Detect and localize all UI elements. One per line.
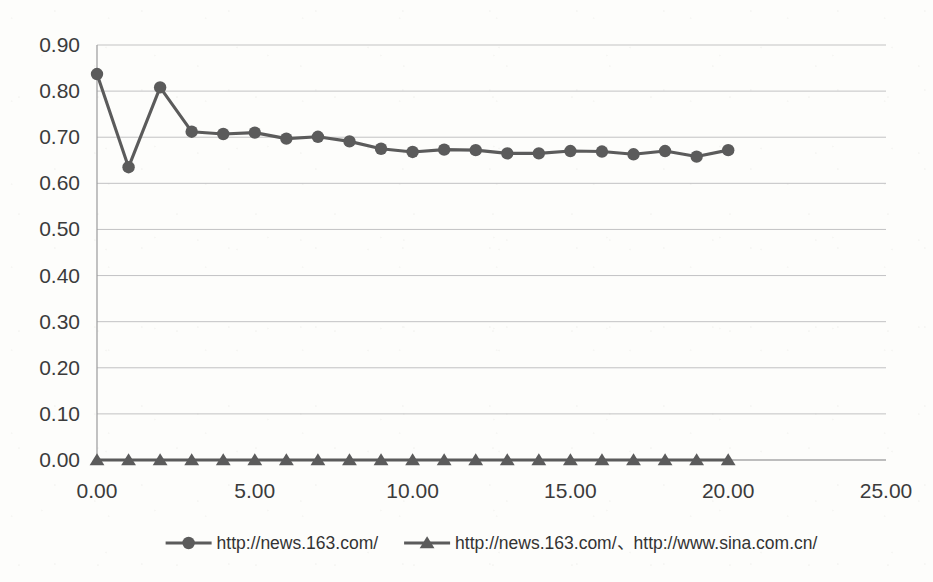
data-point-marker (564, 145, 576, 157)
data-point-marker (154, 81, 166, 93)
y-tick-label: 0.00 (39, 448, 80, 471)
data-point-marker (122, 161, 134, 173)
x-tick-label: 0.00 (77, 479, 118, 502)
y-tick-label: 0.20 (39, 356, 80, 379)
data-point-marker (438, 143, 450, 155)
x-tick-label: 15.00 (544, 479, 597, 502)
series-2 (90, 453, 736, 465)
data-point-marker (91, 68, 103, 80)
legend-item[interactable]: http://news.163.com/ (166, 533, 379, 553)
data-point-marker (501, 147, 513, 159)
legend-item[interactable]: http://news.163.com/、http://www.sina.com… (404, 533, 817, 553)
y-tick-label: 0.40 (39, 264, 80, 287)
x-tick-label: 10.00 (386, 479, 439, 502)
data-point-marker (375, 143, 387, 155)
data-point-marker (690, 150, 702, 162)
x-axis-tick-labels: 0.005.0010.0015.0020.0025.00 (77, 479, 913, 502)
y-tick-label: 0.50 (39, 217, 80, 240)
line-chart: 0.000.100.200.300.400.500.600.700.800.90… (0, 0, 933, 582)
data-point-marker (280, 132, 292, 144)
data-point-marker (470, 144, 482, 156)
axes (97, 45, 886, 460)
data-point-marker (249, 126, 261, 138)
y-tick-label: 0.30 (39, 310, 80, 333)
x-tick-label: 20.00 (702, 479, 755, 502)
data-point-marker (343, 135, 355, 147)
legend-label: http://news.163.com/、http://www.sina.com… (455, 533, 817, 553)
legend-label: http://news.163.com/ (217, 533, 379, 553)
data-point-marker (312, 131, 324, 143)
data-point-marker (627, 148, 639, 160)
chart-canvas: 0.000.100.200.300.400.500.600.700.800.90… (0, 0, 933, 582)
data-point-marker (185, 125, 197, 137)
x-tick-label: 5.00 (234, 479, 275, 502)
data-point-marker (659, 145, 671, 157)
y-tick-label: 0.80 (39, 79, 80, 102)
chart-legend: http://news.163.com/http://news.163.com/… (166, 533, 818, 553)
series-1 (91, 68, 735, 174)
data-point-marker (406, 146, 418, 158)
y-tick-label: 0.70 (39, 125, 80, 148)
x-tick-label: 25.00 (860, 479, 913, 502)
data-point-marker (722, 144, 734, 156)
data-point-marker (533, 147, 545, 159)
y-axis-tick-labels: 0.000.100.200.300.400.500.600.700.800.90 (39, 33, 80, 471)
y-tick-label: 0.90 (39, 33, 80, 56)
data-point-marker (217, 128, 229, 140)
data-series (90, 68, 736, 465)
gridlines (97, 45, 886, 460)
data-point-marker (182, 537, 194, 549)
data-point-marker (596, 145, 608, 157)
y-tick-label: 0.10 (39, 402, 80, 425)
y-tick-label: 0.60 (39, 171, 80, 194)
